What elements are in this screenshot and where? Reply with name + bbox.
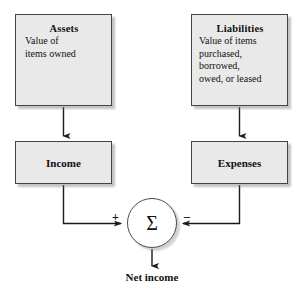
liabilities-body: Value of items purchased, borrowed, owed… bbox=[199, 35, 281, 85]
assets-title: Assets bbox=[25, 22, 103, 35]
income-label: Income bbox=[46, 157, 81, 169]
arrow-expenses-to-sum bbox=[183, 185, 240, 224]
minus-sign-label: – bbox=[184, 211, 190, 221]
liabilities-box: Liabilities Value of items purchased, bo… bbox=[191, 14, 288, 106]
summation-node: Σ bbox=[127, 198, 177, 248]
plus-sign-label: + bbox=[112, 212, 119, 222]
expenses-label: Expenses bbox=[218, 157, 261, 169]
assets-body: Value of items owned bbox=[25, 35, 103, 60]
assets-box: Assets Value of items owned bbox=[15, 14, 112, 106]
expenses-box: Expenses bbox=[191, 141, 288, 184]
sigma-icon: Σ bbox=[146, 213, 158, 233]
income-box: Income bbox=[15, 141, 112, 184]
net-income-label: Net income bbox=[103, 271, 201, 283]
liabilities-title: Liabilities bbox=[199, 22, 281, 35]
net-income-diagram: Assets Value of items owned Liabilities … bbox=[0, 0, 303, 302]
